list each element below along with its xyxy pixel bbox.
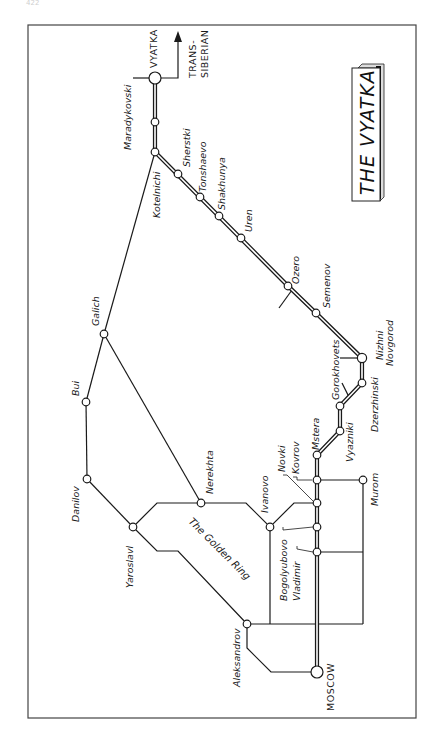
station-nerekhta	[197, 499, 205, 507]
station-kotelnichi	[151, 148, 159, 156]
station-mstera	[313, 451, 321, 459]
title-box: THE VYATKA	[352, 64, 384, 201]
label-nerekhta: Nerekhta	[204, 450, 215, 494]
station-maradykovski	[151, 118, 159, 126]
station-nizhni-novgorod	[357, 353, 366, 362]
label-moscow: MOSCOW	[325, 663, 336, 711]
station-sherstki	[174, 170, 182, 178]
label-danilov: Danilov	[70, 486, 81, 522]
label-vladimir: Vladimir	[291, 560, 302, 601]
label-bogolyubovo: Bogolyubovo	[278, 539, 289, 601]
label-ozero: Ozero	[290, 256, 301, 284]
label-vyatka: VYATKA	[148, 29, 159, 68]
label-yaroslavl: Yaroslavl	[124, 545, 135, 588]
station-bogolyubovo	[313, 523, 321, 531]
label-galich: Galich	[90, 296, 101, 326]
label-ivanovo: Ivanovo	[259, 475, 270, 513]
station-tonshaevo	[196, 193, 204, 201]
label-gorokhovets: Gorokhovets	[330, 340, 341, 400]
station-aleksandrov	[243, 620, 251, 628]
station-dzerzhinski	[358, 379, 366, 387]
station-shakhunya	[215, 212, 223, 220]
label-vyazniki: Vyazniki	[344, 422, 355, 462]
station-gorokhovets	[336, 402, 344, 410]
label-novki: Novki	[276, 445, 287, 472]
station-novki	[313, 499, 321, 507]
label-sherstki: Sherstki	[181, 128, 192, 167]
label-bui: Bui	[70, 380, 81, 396]
label-trans-siberian-1: TRANS-	[187, 40, 198, 79]
railway-map: THE VYATKA	[0, 0, 438, 737]
label-trans-siberian-2: SIBERIAN	[199, 30, 210, 78]
map-title: THE VYATKA	[356, 69, 378, 195]
label-semenov: Semenov	[321, 263, 332, 308]
station-yaroslavl	[129, 523, 137, 531]
station-danilov	[83, 475, 91, 483]
station-vyatka	[149, 72, 161, 84]
label-tonshaevo: Tonshaevo	[197, 141, 208, 192]
station-murom	[359, 476, 367, 484]
label-golden-ring: The Golden Ring	[187, 516, 253, 582]
label-uren: Uren	[243, 209, 254, 232]
station-ivanovo	[266, 523, 274, 531]
label-aleksandrov: Aleksandrov	[231, 628, 242, 688]
label-novgorod: Novgorod	[384, 319, 395, 366]
station-galich	[100, 330, 108, 338]
station-bui	[82, 398, 90, 406]
station-vyazniki	[336, 427, 344, 435]
label-mstera: Mstera	[310, 417, 321, 450]
label-maradykovski: Maradykovski	[122, 84, 133, 150]
station-semenov	[312, 309, 320, 317]
station-vladimir	[313, 548, 321, 556]
label-dzerzhinski: Dzerzhinski	[369, 377, 380, 432]
label-shakhunya: Shakhunya	[216, 157, 227, 210]
station-uren	[237, 234, 245, 242]
label-kovrov: Kovrov	[290, 441, 301, 474]
station-kovrov	[313, 476, 321, 484]
station-moscow	[311, 666, 323, 678]
label-murom: Murom	[369, 473, 380, 506]
label-kotelnichi: Kotelnichi	[151, 171, 162, 218]
trans-siberian-arrow-icon	[174, 31, 182, 42]
